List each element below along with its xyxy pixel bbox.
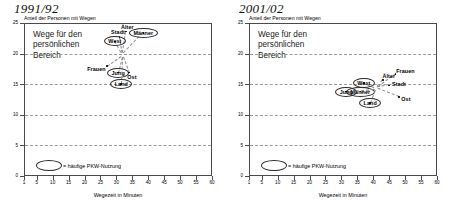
x-tick-mark	[116, 176, 117, 180]
x-tick-label: 15	[288, 180, 300, 185]
x-tick-mark	[389, 176, 390, 180]
x-tick-mark	[325, 176, 326, 180]
chart-panel-1991: 1991/92 Anteil der Personen mit Wegen We…	[0, 0, 224, 206]
x-axis-title: Wegezeit in Minuten	[24, 192, 212, 198]
x-tick-mark	[373, 176, 374, 180]
x-tick-label: 1	[18, 180, 30, 185]
x-tick-label: 15	[63, 180, 75, 185]
y-tick-label: 15	[4, 82, 18, 87]
y-tick-mark	[245, 115, 249, 116]
x-tick-mark	[357, 176, 358, 180]
chart-panel-2001: 2001/02 Anteil der Personen mit Wegen We…	[225, 0, 449, 206]
gridline	[250, 84, 436, 85]
legend: = häufige PKW-Nutzung	[261, 160, 346, 171]
y-tick-mark	[245, 145, 249, 146]
x-tick-label: 30	[335, 180, 347, 185]
data-point-marker	[382, 79, 384, 81]
x-tick-label: 10	[47, 180, 59, 185]
y-axis-title: Anteil der Personen mit Wegen	[249, 15, 321, 21]
inner-title-line-3: Bereich	[33, 51, 82, 61]
y-tick-label: 5	[229, 143, 243, 148]
pkw-usage-ellipse	[107, 68, 129, 78]
y-tick-mark	[20, 84, 24, 85]
y-tick-label: 10	[229, 112, 243, 117]
data-point-label: Frauen	[396, 68, 415, 74]
x-tick-label: 50	[399, 180, 411, 185]
x-tick-label: 5	[256, 180, 268, 185]
y-tick-mark	[20, 23, 24, 24]
x-axis-title: Wegezeit in Minuten	[249, 192, 437, 198]
y-tick-label: 15	[229, 82, 243, 87]
x-tick-mark	[421, 176, 422, 180]
x-tick-mark	[341, 176, 342, 180]
x-tick-label: 40	[367, 180, 379, 185]
x-tick-label: 30	[110, 180, 122, 185]
y-tick-mark	[245, 23, 249, 24]
figure-root: 1991/92 Anteil der Personen mit Wegen We…	[0, 0, 449, 206]
plot-inner-title: Wege für den persönlichen Bereich	[33, 30, 82, 61]
x-tick-mark	[69, 176, 70, 180]
gridline	[25, 54, 211, 55]
inner-title-line-3: Bereich	[258, 51, 307, 61]
legend-label: = häufige PKW-Nutzung	[288, 163, 346, 169]
y-tick-label: 20	[4, 51, 18, 56]
y-tick-mark	[20, 115, 24, 116]
y-axis-title: Anteil der Personen mit Wegen	[24, 15, 96, 21]
pkw-usage-ellipse	[129, 28, 158, 38]
gridline	[250, 145, 436, 146]
data-point-marker	[398, 96, 400, 98]
x-tick-mark	[100, 176, 101, 180]
plot-inner-title: Wege für den persönlichen Bereich	[258, 30, 307, 61]
y-tick-mark	[20, 145, 24, 146]
x-tick-label: 20	[304, 180, 316, 185]
y-tick-label: 0	[229, 173, 243, 178]
x-tick-mark	[164, 176, 165, 180]
gridline	[250, 54, 436, 55]
y-tick-label: 25	[4, 20, 18, 25]
x-tick-mark	[294, 176, 295, 180]
x-tick-label: 20	[79, 180, 91, 185]
gridline	[25, 145, 211, 146]
x-tick-mark	[405, 176, 406, 180]
x-tick-mark	[262, 176, 263, 180]
x-tick-mark	[180, 176, 181, 180]
x-tick-label: 1	[243, 180, 255, 185]
pkw-usage-ellipse	[335, 87, 357, 97]
y-tick-mark	[20, 54, 24, 55]
x-tick-label: 60	[206, 180, 218, 185]
inner-title-line-2: persönlichen	[33, 40, 82, 50]
x-tick-mark	[85, 176, 86, 180]
y-tick-label: 25	[229, 20, 243, 25]
x-tick-label: 5	[31, 180, 43, 185]
x-tick-mark	[148, 176, 149, 180]
gridline	[25, 115, 211, 116]
x-tick-mark	[196, 176, 197, 180]
gridline	[250, 115, 436, 116]
legend-ellipse-icon	[36, 160, 62, 171]
y-tick-mark	[245, 54, 249, 55]
x-tick-mark	[249, 176, 250, 180]
y-tick-label: 20	[229, 51, 243, 56]
x-tick-label: 40	[142, 180, 154, 185]
legend-ellipse-icon	[261, 160, 287, 171]
legend: = häufige PKW-Nutzung	[36, 160, 121, 171]
data-point-marker	[106, 65, 108, 67]
x-tick-label: 25	[319, 180, 331, 185]
x-tick-mark	[212, 176, 213, 180]
inner-title-line-1: Wege für den	[258, 30, 307, 40]
data-point-label: Älter	[382, 73, 395, 79]
x-tick-label: 55	[190, 180, 202, 185]
data-point-label: Ost	[401, 96, 410, 102]
y-tick-label: 5	[4, 143, 18, 148]
x-tick-mark	[53, 176, 54, 180]
inner-title-line-2: persönlichen	[258, 40, 307, 50]
data-point-label: Stadt	[111, 29, 125, 35]
x-tick-mark	[278, 176, 279, 180]
y-tick-label: 0	[4, 173, 18, 178]
x-tick-label: 60	[431, 180, 443, 185]
x-tick-mark	[437, 176, 438, 180]
x-tick-mark	[37, 176, 38, 180]
x-tick-label: 45	[158, 180, 170, 185]
x-tick-label: 10	[272, 180, 284, 185]
inner-title-line-1: Wege für den	[33, 30, 82, 40]
